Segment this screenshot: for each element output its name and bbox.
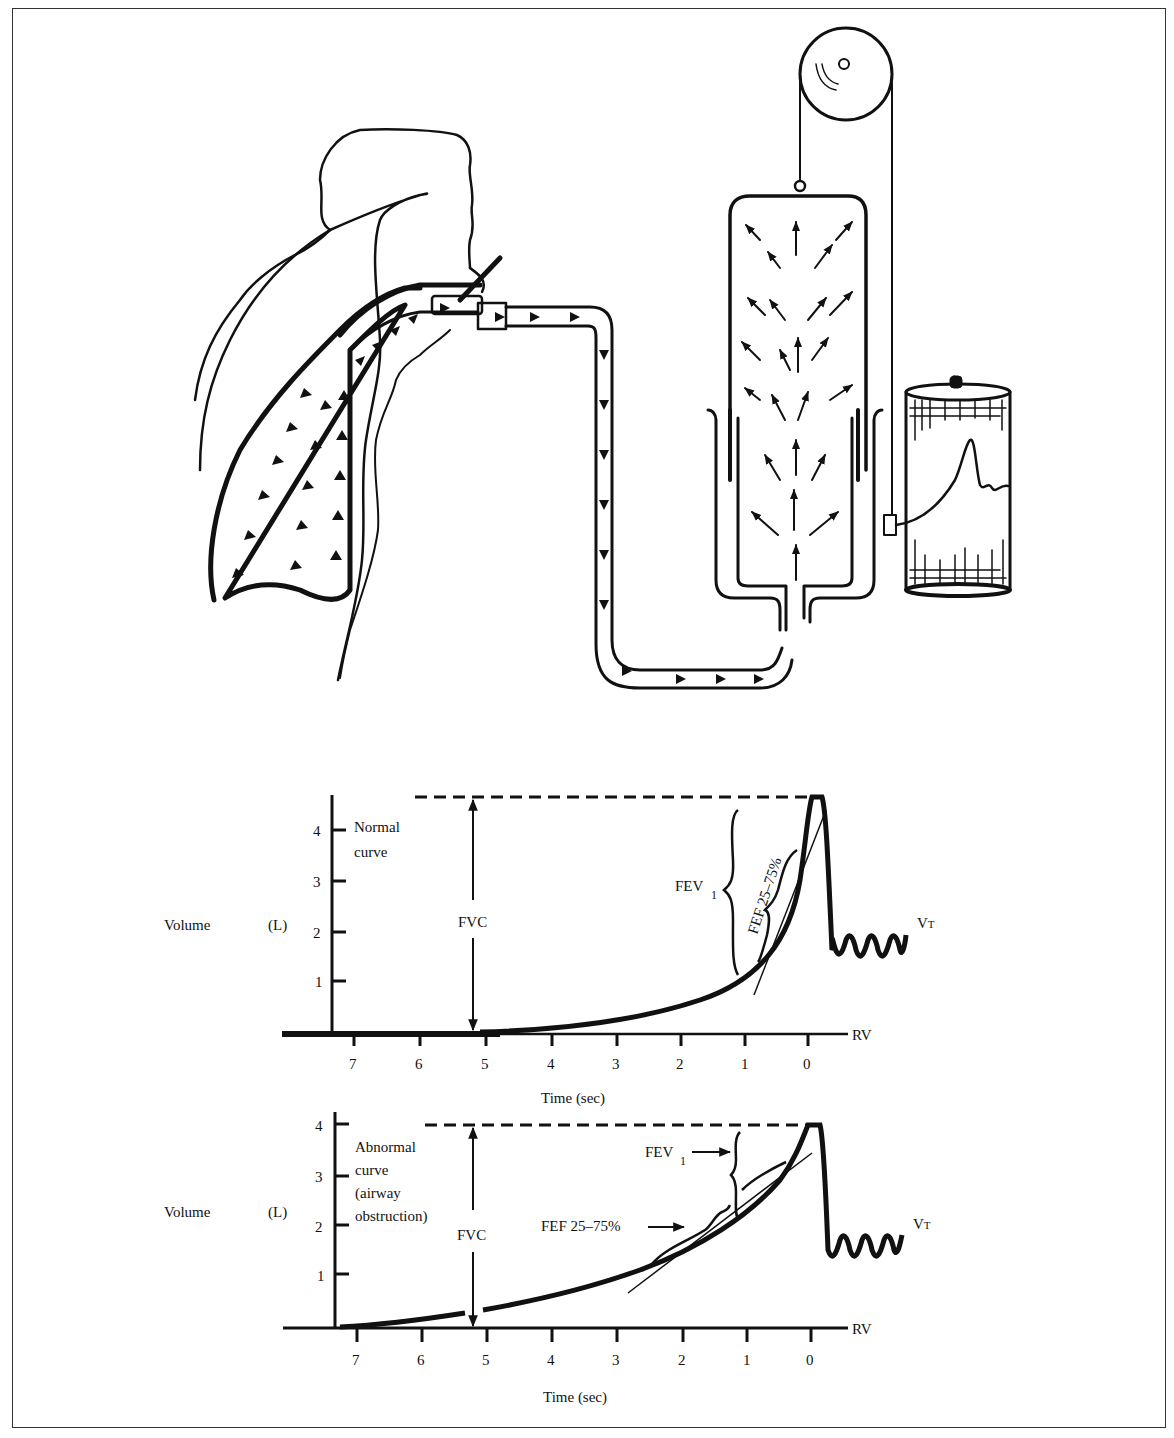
x-axis-label: Time (sec): [543, 1389, 607, 1406]
drum-trace: [896, 440, 1008, 525]
fvc-label: FVC: [457, 1227, 486, 1243]
fev1-label: FEV: [645, 1144, 674, 1160]
tank-right-inner: [804, 418, 852, 618]
fev1-subscript: 1: [680, 1154, 686, 1168]
x-tick-0: 0: [803, 1056, 811, 1072]
drum-bottom: [906, 584, 1010, 596]
nose-clip: [460, 258, 500, 300]
pulley-detail: [816, 64, 838, 90]
rv-label: RV: [852, 1027, 872, 1043]
x-axis-label: Time (sec): [541, 1090, 605, 1107]
tank-right-outer: [810, 410, 882, 622]
x-tick-0: 0: [806, 1352, 814, 1368]
drum-knob: [950, 376, 962, 388]
fev1-subscript: 1: [711, 888, 717, 902]
chart-title-line4: obstruction): [355, 1208, 428, 1225]
x-tick-2: 2: [678, 1352, 686, 1368]
y-tick-2: 2: [315, 1219, 323, 1235]
spirometer-illustration: [708, 28, 1010, 630]
fev1-label: FEV: [675, 878, 704, 894]
normal-volume-curve: [480, 797, 906, 1032]
x-tick-6: 6: [415, 1056, 423, 1072]
y-axis-unit: (L): [268, 917, 287, 934]
x-tick-6: 6: [417, 1352, 425, 1368]
fef-brace: [651, 1205, 730, 1265]
fef-tangent-line: [628, 1153, 812, 1293]
x-tick-5: 5: [481, 1056, 489, 1072]
x-tick-1: 1: [741, 1056, 749, 1072]
y-tick-4: 4: [313, 823, 321, 839]
body-outline: [200, 194, 427, 680]
x-tick-5: 5: [482, 1352, 490, 1368]
y-tick-2: 2: [313, 925, 321, 941]
x-tick-7: 7: [349, 1056, 357, 1072]
rv-label: RV: [852, 1321, 872, 1337]
fef-brace-upper: [742, 1162, 786, 1190]
x-tick-7: 7: [352, 1352, 360, 1368]
pulley-axle: [839, 59, 849, 69]
airflow-arrows-lung: [232, 303, 505, 578]
vt-label: VT: [917, 915, 935, 931]
y-tick-1: 1: [317, 1268, 325, 1284]
y-tick-3: 3: [315, 1169, 323, 1185]
tube-outer-wall: [506, 307, 782, 670]
x-tick-4: 4: [547, 1056, 555, 1072]
x-tick-4: 4: [547, 1352, 555, 1368]
vt-label: VT: [913, 1216, 931, 1232]
x-tick-3: 3: [612, 1056, 620, 1072]
x-tick-3: 3: [612, 1352, 620, 1368]
fef-label: FEF 25–75%: [541, 1218, 621, 1234]
chart-title-line3: (airway: [355, 1185, 401, 1202]
x-tick-2: 2: [676, 1056, 684, 1072]
abnormal-chart: Volume (L) 4 3 2 1 Abnormal curve (airwa…: [164, 1112, 931, 1406]
airflow-arrows-bell: [742, 222, 852, 580]
chart-title-line2: curve: [355, 1162, 389, 1178]
chart-title-line1: Normal: [354, 819, 400, 835]
y-tick-1: 1: [315, 974, 323, 990]
normal-chart: Volume (L) 4 3 2 1 Normal curve FVC FEV …: [164, 795, 935, 1107]
y-tick-4: 4: [315, 1118, 323, 1134]
x-ticks: [357, 1328, 811, 1342]
drum-grid-marks: [910, 400, 1006, 584]
fvc-label: FVC: [458, 914, 487, 930]
pulley-wheel: [800, 28, 892, 120]
recording-pen: [884, 515, 896, 535]
chart-title-line2: curve: [354, 844, 388, 860]
spirometry-figure: Volume (L) 4 3 2 1 Normal curve FVC FEV …: [0, 0, 1174, 1438]
fev1-brace: [724, 810, 738, 975]
abnormal-volume-curve-left: [340, 1313, 465, 1327]
y-axis-label: Volume: [164, 1204, 211, 1220]
y-axis-label: Volume: [164, 917, 211, 933]
subject-illustration: [195, 129, 792, 688]
head-outline: [320, 129, 473, 268]
y-axis-unit: (L): [268, 1204, 287, 1221]
chart-title-line1: Abnormal: [355, 1139, 416, 1155]
x-tick-1: 1: [743, 1352, 751, 1368]
bell-outer: [730, 196, 866, 470]
tube-inner-wall: [506, 326, 792, 688]
fev1-brace: [731, 1132, 740, 1218]
bell-hook: [795, 181, 805, 191]
y-tick-3: 3: [313, 874, 321, 890]
fef-label: FEF 25–75%: [745, 855, 785, 936]
tank-left-outer: [708, 410, 780, 630]
